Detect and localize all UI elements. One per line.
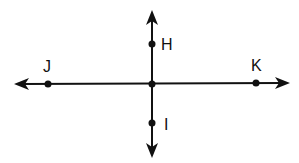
- point-j: [45, 81, 52, 88]
- point-h: [149, 41, 156, 48]
- point-center: [149, 81, 156, 88]
- diagram-canvas: H I J K: [0, 0, 299, 163]
- point-i: [149, 120, 156, 127]
- point-k: [253, 80, 260, 87]
- label-j: J: [43, 58, 51, 75]
- label-h: H: [161, 36, 173, 53]
- label-i: I: [164, 116, 168, 133]
- label-k: K: [251, 57, 262, 74]
